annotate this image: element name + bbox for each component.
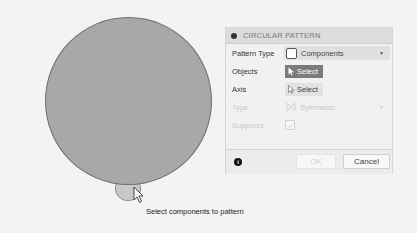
cancel-button[interactable]: Cancel [343,154,390,169]
suppress-label: Suppress [232,121,264,130]
large-body-circle[interactable] [45,17,212,185]
objects-label: Objects [232,67,257,76]
dropdown-arrow-icon: ▼ [379,104,384,110]
circular-pattern-dialog: CIRCULAR PATTERN Pattern Type Components… [225,27,393,174]
axis-select-label: Select [297,85,318,94]
dropdown-arrow-icon: ▼ [379,50,384,56]
component-icon [286,48,297,59]
type-label: Type [232,103,248,112]
pattern-type-value: Components [301,49,344,58]
ok-button[interactable]: OK [296,154,336,169]
mouse-cursor-icon [133,186,145,204]
axis-label: Axis [232,85,246,94]
type-dropdown[interactable]: Symmetric ▼ [284,100,390,114]
type-row: Type Symmetric ▼ [226,99,392,115]
pointer-icon [288,85,295,94]
dialog-header[interactable]: CIRCULAR PATTERN [226,28,392,44]
objects-row: Objects Select [226,63,392,79]
dialog-title: CIRCULAR PATTERN [243,31,321,40]
pattern-type-row: Pattern Type Components ▼ [226,45,392,61]
dialog-footer: i OK Cancel [226,149,392,174]
objects-select-label: Select [297,67,318,76]
pattern-type-dropdown[interactable]: Components ▼ [284,46,390,60]
pattern-type-label: Pattern Type [232,49,274,58]
collapse-bullet-icon[interactable] [231,33,237,39]
tooltip: Select components to pattern [146,207,244,216]
info-icon[interactable]: i [234,158,242,166]
suppress-checkbox[interactable]: ✓ [285,120,295,130]
symmetric-icon [286,102,296,112]
axis-row: Axis Select [226,81,392,97]
type-value: Symmetric [300,103,335,112]
pointer-icon [288,67,295,76]
axis-select-button[interactable]: Select [285,83,323,96]
suppress-row: Suppress ✓ [226,117,392,133]
objects-select-button[interactable]: Select [285,65,323,78]
